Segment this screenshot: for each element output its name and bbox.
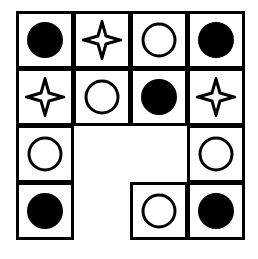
hollow-circle-icon — [25, 134, 65, 174]
filled-circle-icon — [196, 191, 236, 231]
grid-cell — [187, 125, 245, 183]
four-point-star-icon — [196, 77, 236, 117]
filled-circle-icon — [196, 20, 236, 60]
filled-circle-icon — [25, 20, 65, 60]
grid-cell — [16, 182, 74, 240]
hollow-circle-icon — [139, 20, 179, 60]
filled-circle-icon — [139, 77, 179, 117]
grid-cell — [16, 125, 74, 183]
grid-cell — [187, 68, 245, 126]
grid-cell — [16, 68, 74, 126]
grid-cell — [73, 68, 131, 126]
hollow-circle-icon — [139, 191, 179, 231]
grid-cell — [187, 11, 245, 69]
grid-cell — [187, 182, 245, 240]
four-point-star-icon — [82, 20, 122, 60]
four-point-star-icon — [25, 77, 65, 117]
hollow-circle-icon — [196, 134, 236, 174]
grid-cell — [73, 11, 131, 69]
hollow-circle-icon — [82, 77, 122, 117]
grid-cell — [130, 68, 188, 126]
filled-circle-icon — [25, 191, 65, 231]
grid-cell — [16, 11, 74, 69]
grid-cell — [130, 182, 188, 240]
grid-cell — [130, 11, 188, 69]
